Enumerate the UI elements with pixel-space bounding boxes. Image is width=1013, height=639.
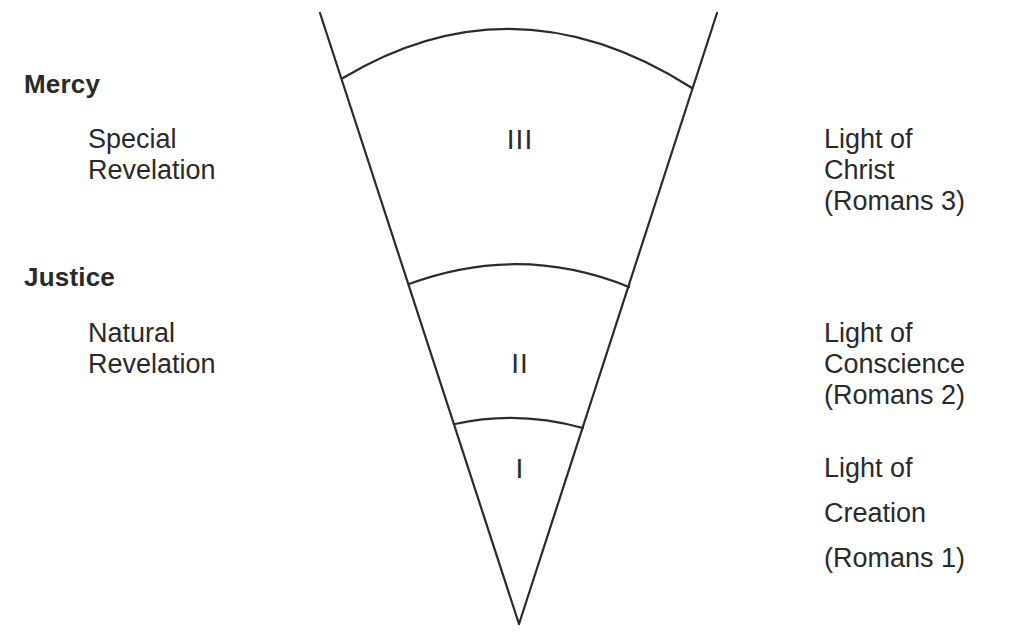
light-of-creation-line-2: Creation	[824, 491, 965, 536]
light-of-christ-line-3: (Romans 3)	[824, 186, 965, 217]
special-revelation-line-2: Revelation	[88, 155, 216, 186]
natural-revelation-label: Natural Revelation	[88, 318, 216, 380]
section-numeral-i: I	[490, 455, 550, 483]
light-of-creation-line-1: Light of	[824, 446, 965, 491]
natural-revelation-line-2: Revelation	[88, 349, 216, 380]
light-of-christ-label: Light of Christ (Romans 3)	[824, 124, 965, 217]
light-of-conscience-line-1: Light of	[824, 318, 965, 349]
special-revelation-line-1: Special	[88, 124, 216, 155]
light-of-creation-line-3: (Romans 1)	[824, 536, 965, 581]
light-of-creation-label: Light of Creation (Romans 1)	[824, 446, 965, 581]
heading-mercy: Mercy	[24, 69, 100, 100]
heading-justice: Justice	[24, 262, 115, 293]
section-numeral-ii: II	[490, 350, 550, 378]
light-of-conscience-label: Light of Conscience (Romans 2)	[824, 318, 965, 411]
special-revelation-label: Special Revelation	[88, 124, 216, 186]
light-of-conscience-line-3: (Romans 2)	[824, 380, 965, 411]
diagram-canvas: III II I Mercy Special Revelation Justic…	[0, 0, 1013, 639]
light-of-christ-line-1: Light of	[824, 124, 965, 155]
light-of-conscience-line-2: Conscience	[824, 349, 965, 380]
cone-right-edge	[519, 13, 717, 624]
arc-lower	[455, 418, 583, 428]
arc-middle	[409, 264, 629, 287]
cone-left-edge	[320, 13, 519, 624]
natural-revelation-line-1: Natural	[88, 318, 216, 349]
light-of-christ-line-2: Christ	[824, 155, 965, 186]
arc-top	[343, 29, 692, 88]
section-numeral-iii: III	[490, 126, 550, 154]
